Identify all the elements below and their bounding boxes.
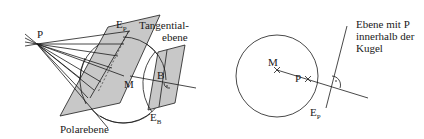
- label-ep-right: EP: [310, 106, 321, 121]
- label-m: M: [124, 78, 134, 90]
- right-angle-dot-left: [166, 85, 168, 87]
- diagram-canvas: P EP Tangential- ebene M B EB Polarebene…: [0, 0, 424, 139]
- label-polarebene: Polarebene: [60, 123, 109, 135]
- caption-line-2: innerhalb der: [356, 30, 415, 42]
- label-p-right: P: [295, 72, 301, 84]
- left-figure: P EP Tangential- ebene M B EB Polarebene: [25, 15, 196, 135]
- right-figure: M P EP Ebene mit P innerhalb der Kugel: [236, 18, 415, 121]
- caption-line-1: Ebene mit P: [356, 18, 410, 30]
- label-tangential: Tangential-: [139, 19, 189, 31]
- axis-line-right: [277, 70, 368, 98]
- caption-line-3: Kugel: [356, 42, 383, 54]
- right-angle-mark-right: [332, 76, 341, 88]
- label-b: B: [157, 69, 164, 81]
- sphere-arc-bottom: [100, 114, 150, 123]
- sphere-outline-right: [236, 35, 318, 117]
- right-angle-dot-right: [335, 80, 337, 82]
- plane-ep-line: [326, 26, 347, 108]
- label-eb: EB: [150, 111, 162, 126]
- label-p: P: [37, 28, 43, 40]
- label-m-right: M: [268, 56, 278, 68]
- point-p-marker: [25, 34, 37, 46]
- label-ebene: ebene: [162, 31, 188, 43]
